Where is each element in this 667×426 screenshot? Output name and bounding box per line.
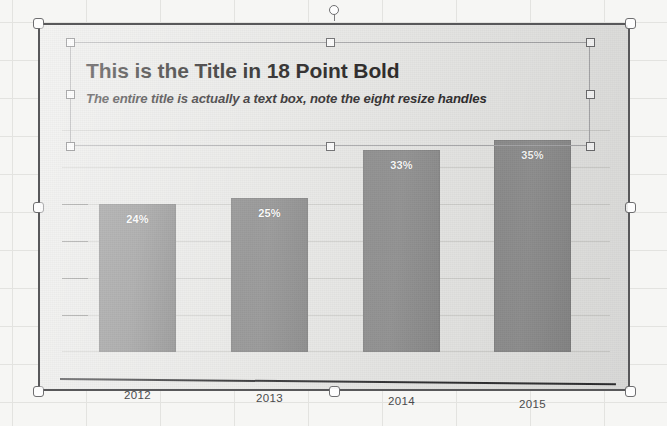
axis-tick-stub bbox=[62, 278, 88, 279]
category-label-2015: 2015 bbox=[494, 398, 571, 410]
axis-tick-stub bbox=[62, 315, 88, 316]
sheet-gridline-vertical bbox=[12, 0, 13, 426]
axis-tick-stub bbox=[62, 241, 88, 242]
chart-handle-bottom-center[interactable] bbox=[329, 386, 340, 397]
textbox-handle-top-center[interactable] bbox=[326, 38, 335, 47]
category-label-2014: 2014 bbox=[363, 395, 440, 407]
rotation-handle-stem bbox=[334, 14, 335, 21]
bar-label-2014: 33% bbox=[363, 159, 440, 171]
bar-label-2013: 25% bbox=[231, 207, 308, 219]
bar-2015[interactable]: 35% bbox=[494, 140, 571, 352]
textbox-handle-top-left[interactable] bbox=[66, 38, 75, 47]
category-label-2013: 2013 bbox=[231, 392, 308, 404]
bar-2012[interactable]: 24% bbox=[99, 204, 176, 352]
bar-2013[interactable]: 25% bbox=[231, 198, 308, 352]
rotation-handle[interactable] bbox=[329, 5, 339, 15]
textbox-handle-bottom-center[interactable] bbox=[326, 142, 335, 151]
textbox-handle-middle-right[interactable] bbox=[586, 90, 595, 99]
chart-handle-middle-left[interactable] bbox=[33, 202, 44, 213]
chart-handle-middle-right[interactable] bbox=[625, 202, 636, 213]
plot-area[interactable]: 24% 25% 33% 35% bbox=[62, 130, 610, 352]
bar-label-2012: 24% bbox=[99, 213, 176, 225]
axis-tick-stub bbox=[62, 204, 88, 205]
bar-2014[interactable]: 33% bbox=[363, 150, 440, 352]
textbox-handle-bottom-left[interactable] bbox=[66, 142, 75, 151]
chart-object[interactable]: 24% 25% 33% 35% 2012 2013 2014 2015 This… bbox=[38, 23, 630, 391]
chart-handle-top-right[interactable] bbox=[625, 18, 636, 29]
textbox-handle-middle-left[interactable] bbox=[66, 90, 75, 99]
chart-handle-bottom-right[interactable] bbox=[625, 386, 636, 397]
title-text-box[interactable]: This is the Title in 18 Point Bold The e… bbox=[70, 42, 590, 146]
title-text: This is the Title in 18 Point Bold bbox=[86, 59, 581, 83]
category-label-2012: 2012 bbox=[99, 389, 176, 401]
chart-handle-top-left[interactable] bbox=[33, 18, 44, 29]
subtitle-text: The entire title is actually a text box,… bbox=[86, 91, 581, 106]
chart-handle-bottom-left[interactable] bbox=[33, 386, 44, 397]
textbox-handle-top-right[interactable] bbox=[586, 38, 595, 47]
bar-label-2015: 35% bbox=[494, 149, 571, 161]
textbox-handle-bottom-right[interactable] bbox=[586, 142, 595, 151]
